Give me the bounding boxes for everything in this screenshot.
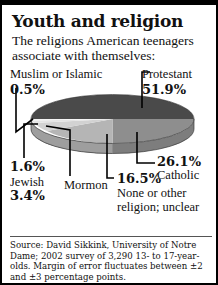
callout-catholic-pct: 26.1% [157,155,201,169]
source-note: Source: David Sikkink, University of Not… [10,240,210,282]
callout-mormon-name: Mormon [64,178,108,192]
callout-muslim-pct: 0.5% [10,83,102,97]
pie-chart-svg [30,93,195,155]
infographic-card: Youth and religion The religions America… [0,0,218,285]
callout-catholic-name: Catholic [157,169,201,183]
callout-jewish-pct-top: 1.6% [10,160,46,174]
callout-protestant-name: Protestant [142,68,192,82]
callout-mormon: Mormon [64,179,108,193]
callout-catholic: 26.1% Catholic [157,155,201,182]
callout-jewish-pct: 3.4% [10,189,46,203]
callout-muslim-name: Muslim or Islamic [10,68,102,82]
pie-chart [30,93,195,155]
callout-protestant: Protestant 51.9% [142,68,192,96]
callout-protestant-pct: 51.9% [142,83,192,97]
source-divider [10,236,212,237]
callout-muslim: Muslim or Islamic 0.5% [10,68,102,96]
callout-jewish-row: Jewish3.4% [10,176,46,203]
callout-jewish: 1.6% Jewish3.4% [10,160,46,203]
callout-none-name: None or other religion; unclear [117,186,212,214]
callout-jewish-name: Jewish [10,175,44,189]
pie-slice-protestant [31,95,194,120]
